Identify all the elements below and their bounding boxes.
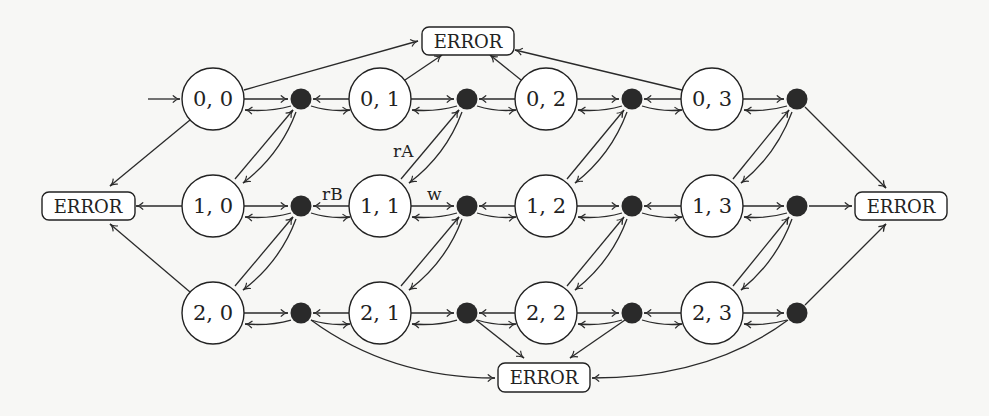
state-node-1-0: 1, 0 — [182, 175, 244, 237]
error-node-left: ERROR — [42, 192, 135, 220]
svg-text:0, 0: 0, 0 — [193, 87, 233, 111]
state-node-1-2: 1, 2 — [515, 175, 577, 237]
svg-text:2, 3: 2, 3 — [692, 301, 732, 325]
intermediate-node — [457, 89, 478, 110]
state-node-1-1: 1, 1 — [349, 175, 411, 237]
error-node-right: ERROR — [855, 192, 947, 220]
state-node-0-2: 0, 2 — [515, 68, 577, 130]
intermediate-node — [622, 89, 643, 110]
state-node-0-0: 0, 0 — [182, 68, 244, 130]
error-node-top: ERROR — [422, 27, 514, 55]
intermediate-node — [622, 196, 643, 217]
intermediate-node — [787, 303, 808, 324]
state-machine-diagram: rA rB w 0, 0 0, 1 0, 2 0, 3 1, 0 1, 1 1,… — [0, 0, 989, 416]
error-node-bottom: ERROR — [498, 363, 590, 392]
edge-label-rB: rB — [322, 184, 343, 204]
svg-text:1, 1: 1, 1 — [360, 194, 400, 218]
intermediate-node — [787, 196, 808, 217]
svg-text:ERROR: ERROR — [54, 196, 123, 217]
intermediate-node — [291, 89, 312, 110]
svg-text:1, 0: 1, 0 — [193, 194, 233, 218]
intermediate-node — [457, 196, 478, 217]
state-node-2-2: 2, 2 — [515, 282, 577, 344]
state-node-2-3: 2, 3 — [681, 282, 743, 344]
svg-text:ERROR: ERROR — [867, 196, 936, 217]
edge-label-rA: rA — [393, 141, 414, 161]
intermediate-node — [787, 89, 808, 110]
svg-text:0, 1: 0, 1 — [360, 87, 400, 111]
svg-text:ERROR: ERROR — [510, 367, 579, 388]
svg-text:2, 1: 2, 1 — [360, 301, 400, 325]
intermediate-node — [457, 303, 478, 324]
intermediate-node — [291, 196, 312, 217]
state-node-2-1: 2, 1 — [349, 282, 411, 344]
state-node-0-3: 0, 3 — [681, 68, 743, 130]
intermediate-node — [291, 303, 312, 324]
state-node-2-0: 2, 0 — [182, 282, 244, 344]
intermediate-node — [622, 303, 643, 324]
edge-label-w: w — [427, 184, 442, 204]
svg-text:1, 3: 1, 3 — [692, 194, 732, 218]
svg-text:1, 2: 1, 2 — [526, 194, 566, 218]
svg-text:ERROR: ERROR — [434, 31, 503, 52]
state-node-1-3: 1, 3 — [681, 175, 743, 237]
svg-text:0, 2: 0, 2 — [526, 87, 566, 111]
svg-text:0, 3: 0, 3 — [692, 87, 732, 111]
state-node-0-1: 0, 1 — [349, 68, 411, 130]
svg-text:2, 0: 2, 0 — [193, 301, 233, 325]
svg-text:2, 2: 2, 2 — [526, 301, 566, 325]
